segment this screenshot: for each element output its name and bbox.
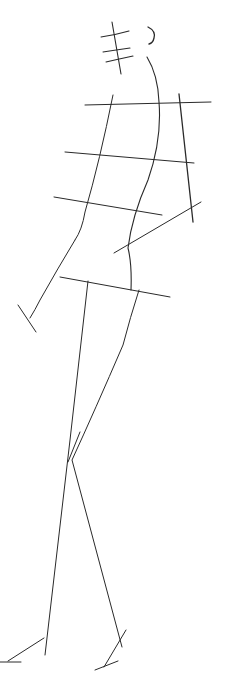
foot-left bbox=[8, 638, 44, 661]
hip-line bbox=[60, 277, 170, 297]
sketch-canvas bbox=[0, 0, 227, 695]
back-arm-line bbox=[179, 94, 193, 222]
head-guide-3 bbox=[106, 56, 133, 62]
torso-left-edge bbox=[75, 95, 113, 240]
chest-line bbox=[65, 152, 194, 163]
hand-left-mark bbox=[18, 305, 36, 332]
leg-right bbox=[72, 290, 139, 647]
fashion-figure-sketch bbox=[0, 0, 227, 695]
ear-curve bbox=[148, 27, 154, 44]
head-guide-1 bbox=[101, 31, 129, 37]
head-center-line bbox=[112, 22, 121, 74]
shoulder-line bbox=[85, 102, 211, 105]
spine-curve bbox=[128, 57, 160, 290]
foot-right bbox=[104, 630, 126, 667]
waist-line bbox=[54, 197, 162, 215]
leg-left-thigh bbox=[45, 281, 88, 655]
